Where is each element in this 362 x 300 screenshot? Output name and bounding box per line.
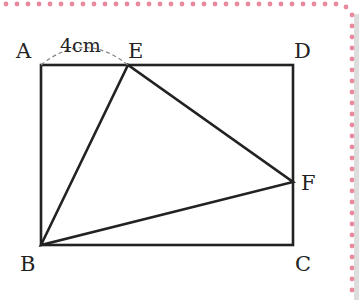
measurement-label: 4cm (60, 34, 101, 56)
label-a: A (15, 39, 32, 63)
label-f: F (301, 171, 316, 195)
label-d: D (294, 39, 311, 63)
label-b: B (20, 252, 35, 276)
geometry-diagram: A 4cm E D F B C (0, 0, 362, 300)
triangle-bef (41, 65, 293, 245)
label-e: E (128, 39, 143, 63)
frame-shadow (354, 14, 359, 300)
label-c: C (295, 252, 311, 276)
